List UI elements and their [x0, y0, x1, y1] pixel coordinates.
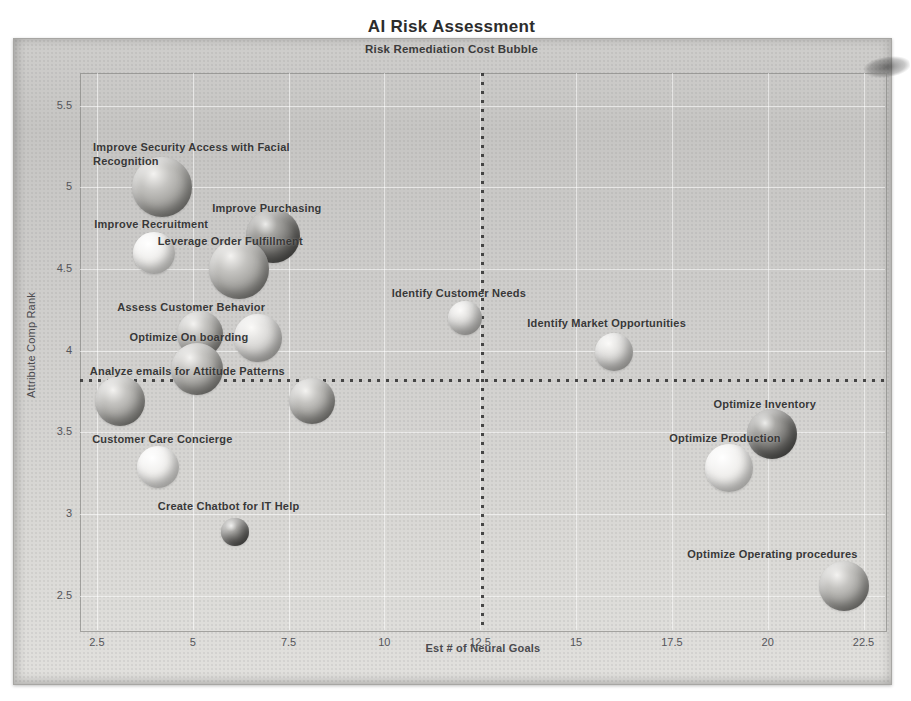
x-axis-title: Est # of Neural Goals	[383, 642, 583, 654]
bubble-unlabeled	[289, 378, 335, 424]
bubble-label-assess-customer-behavior: Assess Customer Behavior	[117, 301, 265, 313]
bubble-label-analyze-emails-for-attitude-patterns: Analyze emails for Attitude Patterns	[90, 365, 285, 377]
bubble-label-improve-recruitment: Improve Recruitment	[94, 218, 208, 230]
bubble-label-customer-care-concierge: Customer Care Concierge	[92, 433, 232, 445]
y-tick-label: 2.5	[32, 589, 72, 601]
y-axis-title: Attribute Comp Rank	[25, 255, 39, 435]
bubble-label-identify-customer-needs: Identify Customer Needs	[392, 287, 526, 299]
chart-title: AI Risk Assessment	[13, 17, 890, 37]
bubble-leverage-order-fulfillment	[209, 239, 269, 299]
reference-line-vertical	[481, 73, 484, 630]
y-tick-label: 5.5	[32, 99, 72, 111]
bubble-label-improve-security-access-with-facial-recognition: Improve Security Access with Facial Reco…	[93, 140, 313, 168]
bubble-label-optimize-inventory: Optimize Inventory	[714, 398, 817, 410]
x-tick-label: 7.5	[267, 636, 311, 648]
bubble-label-identify-market-opportunities: Identify Market Opportunities	[527, 317, 686, 329]
bubble-label-leverage-order-fulfillment: Leverage Order Fulfillment	[158, 235, 303, 247]
chart-stage: AI Risk Assessment Risk Remediation Cost…	[0, 0, 911, 701]
x-tick-label: 2.5	[75, 636, 119, 648]
bubble-label-optimize-operating-procedures: Optimize Operating procedures	[687, 548, 857, 560]
bubble-label-create-chatbot-for-it-help: Create Chatbot for IT Help	[158, 500, 300, 512]
bubble-optimize-operating-procedures	[819, 561, 869, 611]
x-tick-label: 20	[746, 636, 790, 648]
bubble-create-chatbot-for-it-help	[221, 518, 249, 546]
chart-subtitle: Risk Remediation Cost Bubble	[13, 43, 890, 55]
x-tick-label: 17.5	[650, 636, 694, 648]
bubble-customer-care-concierge	[137, 446, 179, 488]
y-tick-label: 3	[32, 507, 72, 519]
y-tick-label: 5	[32, 180, 72, 192]
bubble-analyze-emails-for-attitude-patterns	[95, 376, 145, 426]
bubble-label-improve-purchasing: Improve Purchasing	[212, 202, 321, 214]
bubble-identify-customer-needs	[448, 301, 482, 335]
x-tick-label: 5	[171, 636, 215, 648]
bubble-label-optimize-production: Optimize Production	[669, 432, 780, 444]
bubble-label-optimize-on-boarding: Optimize On boarding	[130, 331, 249, 343]
x-tick-label: 22.5	[842, 636, 886, 648]
